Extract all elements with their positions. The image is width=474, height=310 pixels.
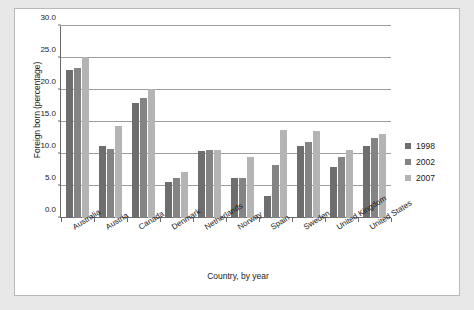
x-axis-title: Country, by year	[15, 271, 461, 281]
x-axis-tick-mark	[127, 218, 128, 222]
legend-label: 2002	[416, 157, 435, 167]
legend-item-1998[interactable]: 1998	[405, 138, 461, 154]
y-axis-tick-label: 0.0	[45, 205, 56, 214]
bar-norway-2002[interactable]	[239, 178, 246, 218]
chart-card: Foreign born (percentage) Country, by ye…	[14, 8, 460, 296]
bar-united-kingdom-1998[interactable]	[330, 167, 337, 218]
bar-australia-2007[interactable]	[82, 57, 89, 218]
legend-swatch-icon	[405, 159, 411, 165]
x-axis-tick-mark	[391, 218, 392, 222]
bar-sweden-2007[interactable]	[313, 131, 320, 218]
x-axis-tick-mark	[259, 218, 260, 222]
x-axis-tick-mark	[94, 218, 95, 222]
bar-australia-2002[interactable]	[74, 68, 81, 218]
y-axis-tick-label: 30.0	[40, 13, 56, 22]
bar-spain-2002[interactable]	[272, 165, 279, 218]
bar-group	[127, 26, 160, 218]
plot-area: 0.05.010.015.020.025.030.0 AustraliaAust…	[61, 26, 391, 218]
bar-united-kingdom-2007[interactable]	[346, 150, 353, 218]
bar-norway-2007[interactable]	[247, 157, 254, 218]
legend-item-2002[interactable]: 2002	[405, 154, 461, 170]
bar-denmark-1998[interactable]	[165, 182, 172, 218]
bar-group	[61, 26, 94, 218]
bar-group	[292, 26, 325, 218]
bar-group	[160, 26, 193, 218]
bar-group	[259, 26, 292, 218]
x-axis-tick-mark	[358, 218, 359, 222]
x-axis-tick-mark	[193, 218, 194, 222]
bar-united-kingdom-2002[interactable]	[338, 157, 345, 218]
bar-canada-2002[interactable]	[140, 98, 147, 218]
y-axis-tick-label: 15.0	[40, 109, 56, 118]
y-axis-tick-label: 20.0	[40, 77, 56, 86]
bar-sweden-1998[interactable]	[297, 146, 304, 218]
x-axis-tick-mark	[61, 218, 62, 222]
bar-group	[226, 26, 259, 218]
x-axis-tick-mark	[226, 218, 227, 222]
x-axis-tick-mark	[325, 218, 326, 222]
y-axis-tick-label: 5.0	[45, 173, 56, 182]
y-axis-tick-label: 10.0	[40, 141, 56, 150]
legend-item-2007[interactable]: 2007	[405, 170, 461, 186]
legend-swatch-icon	[405, 175, 411, 181]
bar-netherlands-2002[interactable]	[206, 150, 213, 218]
bar-netherlands-1998[interactable]	[198, 151, 205, 218]
x-axis-tick-mark	[292, 218, 293, 222]
bar-group	[358, 26, 391, 218]
bar-australia-1998[interactable]	[66, 70, 73, 218]
bar-group	[193, 26, 226, 218]
bar-spain-1998[interactable]	[264, 196, 271, 218]
y-axis-tick-label: 25.0	[40, 45, 56, 54]
legend-swatch-icon	[405, 143, 411, 149]
legend-label: 1998	[416, 141, 435, 151]
bar-austria-2002[interactable]	[107, 149, 114, 218]
bar-denmark-2007[interactable]	[181, 172, 188, 218]
bar-spain-2007[interactable]	[280, 130, 287, 218]
bar-canada-2007[interactable]	[148, 89, 155, 218]
bar-austria-2007[interactable]	[115, 126, 122, 218]
bar-denmark-2002[interactable]	[173, 178, 180, 218]
chart-figure: Foreign born (percentage) Country, by ye…	[0, 0, 474, 310]
legend-label: 2007	[416, 173, 435, 183]
bar-canada-1998[interactable]	[132, 103, 139, 218]
x-axis-tick-mark	[160, 218, 161, 222]
bar-austria-1998[interactable]	[99, 146, 106, 218]
bar-netherlands-2007[interactable]	[214, 150, 221, 218]
chart-legend: 199820022007	[405, 138, 461, 186]
bar-group	[94, 26, 127, 218]
bar-group	[325, 26, 358, 218]
bar-sweden-2002[interactable]	[305, 142, 312, 218]
